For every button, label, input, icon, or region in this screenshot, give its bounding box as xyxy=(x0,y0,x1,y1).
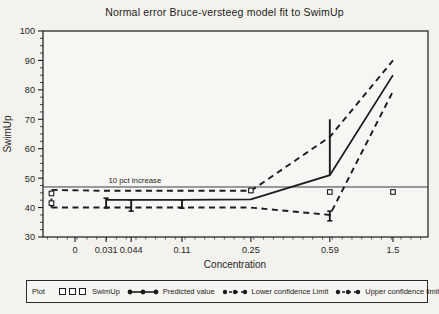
open-square-icon xyxy=(79,288,86,295)
y-axis-ticks: 10090807060504030 xyxy=(20,26,43,242)
legend-box: Plot SwimUp Predicted value xyxy=(26,280,428,303)
legend-item-label: Lower confidence Limit xyxy=(252,287,329,296)
y-tick-label: 100 xyxy=(20,26,35,36)
solid-line-markers-icon xyxy=(126,288,160,296)
chart-title: Normal error Bruce-versteeg model fit to… xyxy=(0,6,435,18)
swimup-marker xyxy=(49,201,54,206)
y-tick-label: 30 xyxy=(25,232,35,242)
x-tick-label: 0.11 xyxy=(173,245,190,255)
x-tick-label: 0 xyxy=(72,245,77,255)
legend-item-label: SwimUp xyxy=(92,287,120,296)
x-axis-ticks: 00.0310.0440.110.250.591.5 xyxy=(48,237,421,255)
x-tick-label: 1.5 xyxy=(387,245,400,255)
open-square-icon xyxy=(69,288,76,295)
x-tick-label: 0.044 xyxy=(120,245,143,255)
dashed-line-markers-icon xyxy=(334,288,362,296)
swimup-marker xyxy=(49,191,54,196)
x-tick-label: 0.031 xyxy=(95,245,118,255)
swimup-marker xyxy=(328,190,333,195)
y-tick-label: 40 xyxy=(25,203,35,213)
legend-plot-label: Plot xyxy=(32,287,45,296)
y-axis-label: SwimUp xyxy=(2,115,13,153)
y-tick-label: 70 xyxy=(25,115,35,125)
legend-item-label: Upper confidence limit xyxy=(365,287,439,296)
legend-item-swimup: SwimUp xyxy=(59,287,120,296)
y-tick-label: 50 xyxy=(25,174,35,184)
y-tick-label: 60 xyxy=(25,144,35,154)
dashed-line-markers-icon xyxy=(221,288,249,296)
y-tick-label: 90 xyxy=(25,56,35,66)
legend-item-label: Predicted value xyxy=(163,287,215,296)
swimup-marker xyxy=(391,190,396,195)
reference-line-label: 10 pct increase xyxy=(108,176,161,185)
legend-item-upper-ci: Upper confidence limit xyxy=(334,287,439,296)
x-axis-label: Concentration xyxy=(204,259,266,270)
plot-canvas: 10090807060504030 00.0310.0440.110.250.5… xyxy=(0,0,435,278)
y-tick-label: 80 xyxy=(25,85,35,95)
swimup-marker xyxy=(249,188,254,193)
x-tick-label: 0.59 xyxy=(321,245,339,255)
x-tick-label: 0.25 xyxy=(242,245,260,255)
open-square-icon xyxy=(59,288,66,295)
legend-item-lower-ci: Lower confidence Limit xyxy=(221,287,329,296)
legend-item-predicted: Predicted value xyxy=(126,287,215,296)
